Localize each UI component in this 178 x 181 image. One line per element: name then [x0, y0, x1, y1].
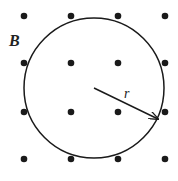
- field-label-b: B: [8, 32, 20, 49]
- magnetic-field-diagram: B r: [0, 0, 178, 181]
- radius-label: r: [124, 86, 130, 101]
